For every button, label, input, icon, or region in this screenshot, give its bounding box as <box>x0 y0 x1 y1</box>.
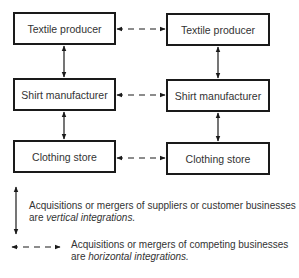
legend-vertical-description: Acquisitions or mergers of suppliers or … <box>29 200 296 223</box>
legend-horizontal-prefix: are <box>71 251 88 262</box>
legend-vertical-line1: Acquisitions or mergers of suppliers or … <box>29 200 296 212</box>
legend-vertical-prefix: are <box>29 212 46 223</box>
legend-horizontal-line2: are horizontal integrations. <box>71 251 288 263</box>
horizontal-integration-term: horizontal integrations. <box>88 251 189 262</box>
legend-horizontal-line1: Acquisitions or mergers of competing bus… <box>71 239 288 251</box>
legend-horizontal-description: Acquisitions or mergers of competing bus… <box>71 239 288 262</box>
connector-arrows <box>0 0 299 278</box>
vertical-integration-term: vertical integrations. <box>46 212 135 223</box>
legend-vertical-line2: are vertical integrations. <box>29 212 296 224</box>
